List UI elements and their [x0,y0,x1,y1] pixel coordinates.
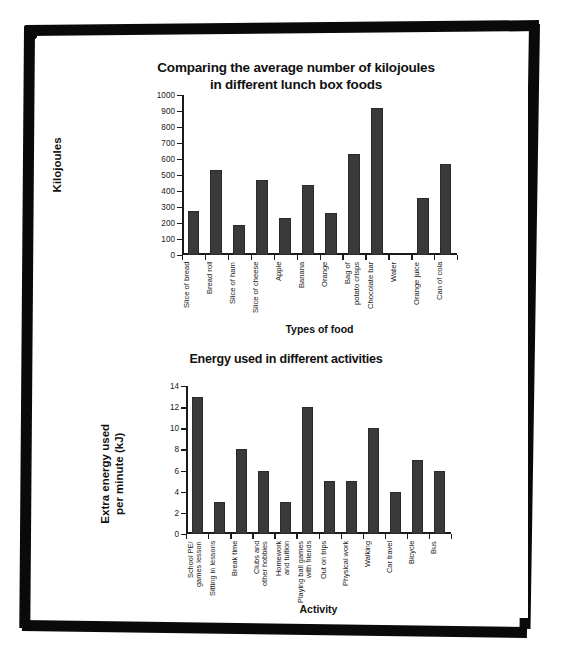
chart1-plot-area: 01002003004005006007008009001000Slice of… [182,95,457,255]
chart1-y-axis-line [182,95,184,255]
y-axis-tick [181,428,186,429]
x-axis-tick [342,255,343,260]
chart2-y-axis-label-line1: Extra energy used [99,424,111,524]
bar [214,502,225,534]
y-axis-tick-label: 12 [170,403,179,412]
y-axis-tick-label: 600 [161,155,175,164]
bar [368,428,379,534]
x-axis-tick [297,255,298,260]
y-axis-tick [177,127,182,128]
bar [440,164,452,255]
x-axis-category-label: Bus [430,541,450,609]
y-axis-tick [181,386,186,387]
y-axis-tick-label: 800 [161,123,175,132]
y-axis-tick [181,513,186,514]
y-axis-tick [181,407,186,408]
x-axis-category-label: Apple [275,262,295,328]
y-axis-tick [177,223,182,224]
y-axis-tick [181,471,186,472]
x-axis-category-label: Out on trips [320,541,340,609]
x-axis-category-label: Walking [364,541,384,609]
y-axis-tick [177,207,182,208]
y-axis-tick [177,239,182,240]
y-axis-tick-label: 300 [161,203,175,212]
bar [210,170,222,255]
bar [434,471,445,534]
bar [258,471,269,534]
x-axis-category-label: Can of cola [436,262,456,328]
y-axis-tick-label: 2 [174,508,179,517]
x-axis-tick [320,255,321,260]
x-axis-tick [407,534,408,539]
page-border-top [27,20,539,36]
bar [390,492,401,534]
x-axis-tick [363,534,364,539]
chart-energy-activities: Energy used in different activities Extr… [36,348,528,618]
bar [302,407,313,534]
x-axis-category-label: Orange juice [413,262,433,328]
y-axis-tick-label: 10 [170,424,179,433]
bar [280,502,291,534]
y-axis-tick [177,111,182,112]
y-axis-tick [177,191,182,192]
x-axis-category-label: Homework and tuition [275,541,295,609]
x-axis-tick [182,255,183,260]
y-axis-tick-label: 8 [174,445,179,454]
y-axis-tick-label: 4 [174,487,179,496]
y-axis-tick-label: 6 [174,466,179,475]
y-axis-tick-label: 900 [161,107,175,116]
bar [346,481,357,534]
chart1-title-line1: Comparing the average number of kilojoul… [157,60,434,75]
page-border-bottom [22,620,527,638]
x-axis-category-label: Slice of bread [183,262,203,328]
x-axis-tick [208,534,209,539]
y-axis-tick-label: 200 [161,219,175,228]
x-axis-category-label: Physical work [342,541,362,609]
x-axis-category-label: Water [390,262,410,328]
y-axis-tick-label: 100 [161,235,175,244]
chart2-plot-area: 02468101214School PE/ games lessonSittin… [186,386,451,534]
x-axis-tick [429,534,430,539]
x-axis-category-label: Chocolate bar [367,262,387,328]
x-axis-category-label: Bicycle [408,541,428,609]
page-border-left [19,28,35,628]
x-axis-tick [252,534,253,539]
bar [324,481,335,534]
x-axis-tick [341,534,342,539]
y-axis-tick [181,492,186,493]
chart1-y-axis-label: Kilojoules [51,110,65,220]
x-axis-category-label: Bag of potato crisps [344,262,364,328]
x-axis-category-label: Orange [321,262,341,328]
x-axis-tick [319,534,320,539]
bar [302,185,314,255]
y-axis-tick-label: 700 [161,139,175,148]
chart1-x-axis-label: Types of food [182,323,457,335]
y-axis-tick-label: 500 [161,171,175,180]
page-border-corner [24,25,37,39]
y-axis-tick-label: 1000 [157,91,175,100]
x-axis-tick [228,255,229,260]
x-axis-category-label: Slice of cheese [252,262,272,328]
x-axis-tick [434,255,435,260]
worksheet-page: Comparing the average number of kilojoul… [36,38,528,618]
y-axis-tick-label: 0 [174,530,179,539]
y-axis-tick [177,95,182,96]
bar [233,225,245,255]
chart1-title: Comparing the average number of kilojoul… [86,60,506,94]
bar [412,460,423,534]
x-axis-tick [388,255,389,260]
x-axis-tick [186,534,187,539]
x-axis-category-label: Clubs and other hobbies [253,541,273,609]
y-axis-tick [177,175,182,176]
y-axis-tick-label: 14 [170,382,179,391]
bar [348,154,360,255]
chart2-y-axis-line [186,386,188,534]
chart2-title: Energy used in different activities [76,352,496,368]
x-axis-tick [365,255,366,260]
x-axis-tick [411,255,412,260]
x-axis-category-label: Bread roll [206,262,226,328]
y-axis-tick-label: 400 [161,187,175,196]
x-axis-category-label: Slice of ham [229,262,249,328]
bar [279,218,291,255]
bar [256,180,268,255]
